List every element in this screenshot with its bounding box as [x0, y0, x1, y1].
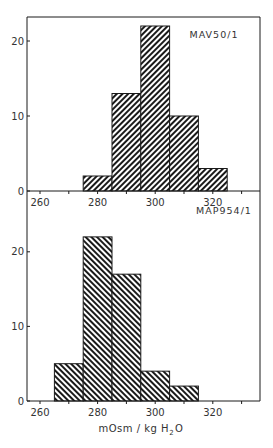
histogram-bar: [141, 26, 170, 191]
x-tick-label: 300: [146, 197, 165, 208]
y-tick-label: 20: [11, 36, 24, 47]
histogram-bar: [198, 169, 227, 192]
histogram-bar: [141, 371, 170, 401]
y-tick-label: 10: [11, 111, 24, 122]
x-tick-label: 280: [88, 197, 107, 208]
x-tick-label: 300: [146, 407, 165, 418]
histogram-bar: [83, 176, 112, 191]
bottom-panel-label: MAP954/1: [196, 205, 252, 216]
histogram-bar: [112, 94, 141, 192]
y-tick-label: 0: [18, 186, 24, 197]
histogram-figure: 26028030032001020 26028030032001020 MAV5…: [0, 0, 273, 448]
x-tick-label: 260: [30, 197, 49, 208]
x-tick-label: 260: [30, 407, 49, 418]
top-histogram-panel: 26028030032001020: [11, 26, 260, 208]
histogram-bar: [112, 274, 141, 401]
histogram-bar: [83, 237, 112, 401]
x-axis-title: mOsm / kg H2O: [99, 423, 184, 437]
x-tick-label: 280: [88, 407, 107, 418]
y-tick-label: 20: [11, 246, 24, 257]
x-tick-label: 320: [203, 407, 222, 418]
histogram-bar: [54, 364, 83, 401]
top-panel-label: MAV50/1: [190, 29, 239, 40]
histogram-bar: [170, 386, 199, 401]
bottom-histogram-panel: 26028030032001020: [11, 237, 260, 418]
histogram-bar: [170, 116, 199, 191]
y-tick-label: 0: [18, 396, 24, 407]
y-tick-label: 10: [11, 321, 24, 332]
